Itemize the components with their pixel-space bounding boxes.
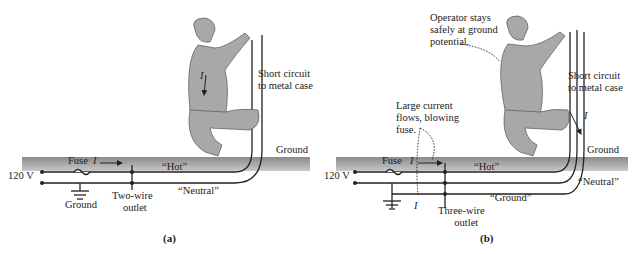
hot-label-b: “Hot” bbox=[474, 161, 499, 173]
wire-current-label-b: I bbox=[584, 110, 588, 122]
hot-label-a: “Hot” bbox=[162, 161, 187, 173]
caption-b: (b) bbox=[480, 232, 493, 244]
voltage-label-b: 120 V bbox=[324, 170, 350, 182]
current-label-a: I bbox=[93, 155, 97, 167]
short-circuit-label-b: Short circuit to metal case bbox=[568, 70, 623, 94]
operator-note-b: Operator stays safely at ground potentia… bbox=[430, 12, 498, 48]
ground-symbol-label-a: Ground bbox=[65, 199, 97, 211]
ground-symbol-icon-a bbox=[71, 183, 89, 199]
neutral-label-a: “Neutral” bbox=[178, 185, 219, 197]
fuse-label-b: Fuse bbox=[382, 155, 402, 167]
large-current-note-b: Large current flows, blowing fuse. bbox=[396, 100, 459, 136]
caption-a: (a) bbox=[163, 232, 176, 244]
diagram-canvas bbox=[0, 0, 636, 254]
neutral-label-b: “Neutral” bbox=[578, 176, 619, 188]
voltage-label-a: 120 V bbox=[8, 170, 34, 182]
outlet-label-b: Three-wire outlet bbox=[438, 205, 485, 229]
body-current-label-a: I bbox=[200, 70, 204, 82]
outlet-label-a: Two-wire outlet bbox=[112, 190, 153, 214]
ground-surface-label-a: Ground bbox=[276, 144, 308, 156]
ground-current-label-b: I bbox=[414, 200, 418, 212]
person-figure-a bbox=[189, 18, 259, 156]
short-circuit-label-a: Short circuit to metal case bbox=[258, 68, 313, 92]
current-label-b: I bbox=[410, 155, 414, 167]
fuse-label-a: Fuse bbox=[68, 155, 88, 167]
ground-wire-label-b: “Ground” bbox=[490, 192, 531, 204]
ground-surface-label-b: Ground bbox=[587, 144, 619, 156]
person-figure-b bbox=[501, 16, 569, 156]
